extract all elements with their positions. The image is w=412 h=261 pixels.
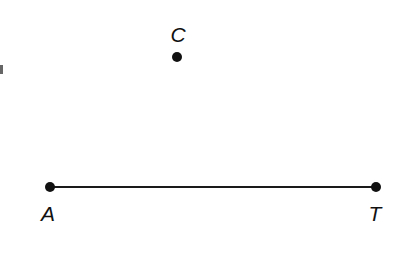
background xyxy=(0,0,412,261)
point-A xyxy=(45,182,55,192)
point-C xyxy=(172,52,182,62)
label-A: A xyxy=(39,202,55,225)
clipped-edge-mark xyxy=(0,65,3,74)
label-T: T xyxy=(369,202,384,225)
point-T xyxy=(371,182,381,192)
label-C: C xyxy=(170,23,186,46)
geometry-diagram: A T C xyxy=(0,0,412,261)
